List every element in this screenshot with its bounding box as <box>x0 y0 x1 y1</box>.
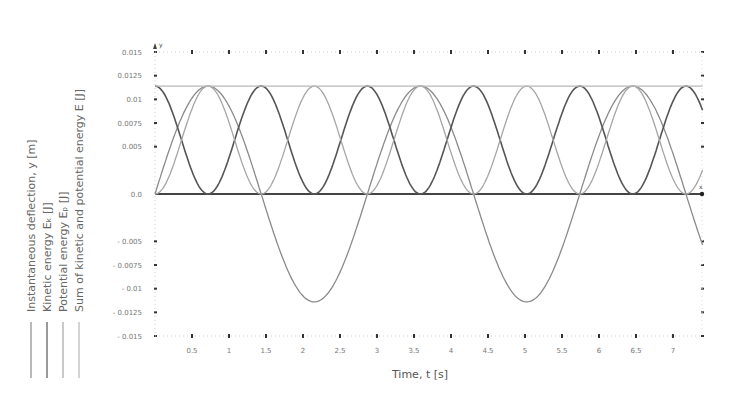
legend-item: Kinetic energy Eₖ [J] <box>41 202 54 378</box>
svg-text:y: y <box>159 41 163 49</box>
svg-text:7: 7 <box>671 347 675 355</box>
svg-text:0.01: 0.01 <box>126 96 142 104</box>
x-axis-title: Time, t [s] <box>391 368 448 381</box>
svg-text:2: 2 <box>301 347 305 355</box>
chart-canvas: y0.0150.01250.010.00750.0050.0- 0.005- 0… <box>0 0 736 399</box>
svg-text:- 0.015: - 0.015 <box>117 333 142 341</box>
svg-text:1.5: 1.5 <box>260 347 271 355</box>
svg-text:1: 1 <box>227 347 231 355</box>
svg-text:0.015: 0.015 <box>122 49 142 57</box>
svg-text:6: 6 <box>597 347 602 355</box>
legend-item: Instantaneous deflection, y [m] <box>25 139 38 378</box>
series-kinetic-energy <box>155 86 703 194</box>
x-axis: 0.511.522.533.544.555.566.57x <box>155 50 704 355</box>
svg-text:0.0075: 0.0075 <box>118 120 143 128</box>
svg-text:Kinetic energy Eₖ [J]: Kinetic energy Eₖ [J] <box>41 202 54 312</box>
svg-text:3: 3 <box>375 347 379 355</box>
svg-text:- 0.0075: - 0.0075 <box>113 262 142 270</box>
svg-text:4: 4 <box>449 347 454 355</box>
svg-text:- 0.01: - 0.01 <box>122 285 142 293</box>
legend-item: Sum of kinetic and potential energy E [J… <box>73 89 86 378</box>
svg-text:- 0.005: - 0.005 <box>117 238 142 246</box>
legend-item: Potential energy Eₚ [J] <box>57 192 70 379</box>
svg-text:- 0.0125: - 0.0125 <box>113 309 142 317</box>
svg-text:3.5: 3.5 <box>408 347 419 355</box>
svg-text:0.005: 0.005 <box>122 143 142 151</box>
svg-text:x: x <box>699 183 703 190</box>
svg-text:Instantaneous deflection, y [m: Instantaneous deflection, y [m] <box>25 139 38 312</box>
svg-text:6.5: 6.5 <box>630 347 641 355</box>
svg-text:5.5: 5.5 <box>556 347 567 355</box>
svg-text:Sum of kinetic and potential e: Sum of kinetic and potential energy E [J… <box>73 89 86 312</box>
svg-text:0.0125: 0.0125 <box>118 72 143 80</box>
svg-text:4.5: 4.5 <box>482 347 493 355</box>
series-potential-energy <box>155 86 703 194</box>
legend: Instantaneous deflection, y [m]Kinetic e… <box>25 89 86 378</box>
svg-text:0.5: 0.5 <box>186 347 197 355</box>
svg-text:2.5: 2.5 <box>334 347 345 355</box>
svg-text:0.0: 0.0 <box>131 191 142 199</box>
svg-text:5: 5 <box>523 347 527 355</box>
svg-text:Potential energy Eₚ [J]: Potential energy Eₚ [J] <box>57 192 70 313</box>
